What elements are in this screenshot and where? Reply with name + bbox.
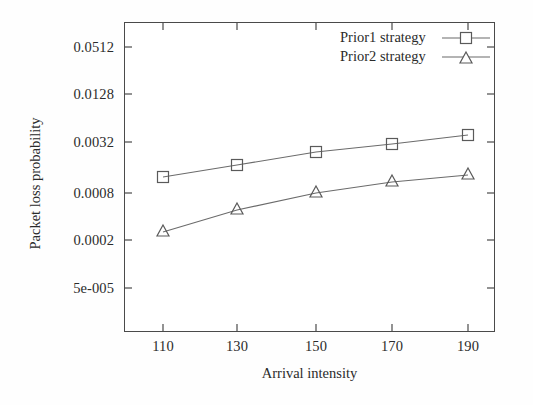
series-prior1 bbox=[158, 130, 474, 183]
y-axis-title: Packet loss probability bbox=[27, 74, 44, 294]
x-tick-label: 150 bbox=[286, 338, 346, 355]
legend-item-prior2: Prior2 strategy bbox=[340, 47, 492, 66]
y-axis-tick-labels: 0.0512 0.0128 0.0032 0.0008 0.0002 5e-00… bbox=[0, 0, 114, 405]
y-tick-label: 0.0002 bbox=[74, 232, 114, 249]
y-axis-ticks-right bbox=[487, 47, 495, 288]
legend-item-prior1: Prior1 strategy bbox=[340, 28, 492, 47]
chart-figure: 0.0512 0.0128 0.0032 0.0008 0.0002 5e-00… bbox=[0, 0, 533, 405]
triangle-marker bbox=[157, 168, 474, 236]
legend-triangle-marker-icon bbox=[440, 49, 492, 65]
y-tick-label: 0.0512 bbox=[74, 39, 114, 56]
legend-label: Prior2 strategy bbox=[340, 48, 440, 65]
x-axis-title: Arrival intensity bbox=[124, 365, 495, 382]
series-prior2 bbox=[157, 168, 474, 236]
y-tick-label: 5e-005 bbox=[73, 280, 114, 297]
y-tick-label: 0.0008 bbox=[74, 185, 114, 202]
x-tick-label: 190 bbox=[438, 338, 498, 355]
square-marker bbox=[158, 130, 474, 183]
legend-square-marker-icon bbox=[440, 30, 492, 46]
y-tick-label: 0.0032 bbox=[74, 134, 114, 151]
x-tick-label: 170 bbox=[362, 338, 422, 355]
x-tick-label: 110 bbox=[133, 338, 193, 355]
x-axis-ticks bbox=[163, 324, 468, 332]
x-tick-label: 130 bbox=[207, 338, 267, 355]
y-tick-label: 0.0128 bbox=[74, 86, 114, 103]
y-axis-ticks bbox=[124, 47, 132, 288]
legend-label: Prior1 strategy bbox=[340, 29, 440, 46]
plot-area bbox=[124, 22, 495, 332]
chart-legend: Prior1 strategy Prior2 strategy bbox=[340, 28, 492, 68]
